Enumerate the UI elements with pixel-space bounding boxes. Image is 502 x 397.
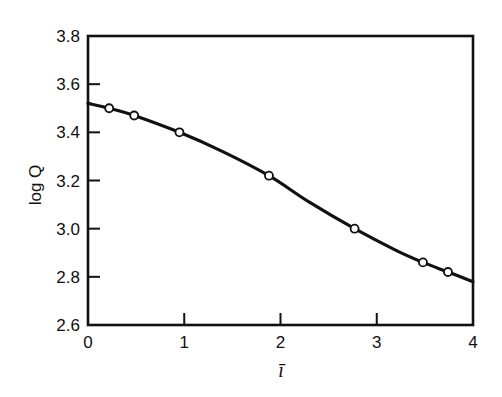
y-tick-label: 3.2	[56, 172, 80, 191]
data-point-marker	[130, 111, 138, 119]
data-point-marker	[419, 258, 427, 266]
data-point-marker	[265, 172, 273, 180]
y-axis-label: log Q	[26, 165, 45, 206]
y-tick-label: 2.6	[56, 316, 80, 335]
data-point-marker	[105, 104, 113, 112]
y-axis-ticks: 2.62.83.03.23.43.63.8	[56, 27, 100, 335]
data-point-marker	[351, 225, 359, 233]
data-point-marker	[444, 268, 452, 276]
fitted-curve	[88, 103, 473, 281]
x-tick-label: 2	[276, 333, 285, 352]
y-tick-label: 2.8	[56, 268, 80, 287]
y-tick-label: 3.6	[56, 75, 80, 94]
y-tick-label: 3.4	[56, 123, 80, 142]
x-tick-label: 0	[83, 333, 92, 352]
x-tick-label: 1	[180, 333, 189, 352]
x-tick-label: 3	[372, 333, 381, 352]
chart-figure: 2.62.83.03.23.43.63.8 01234 log Q ī	[0, 0, 502, 397]
x-axis-label: ī	[278, 359, 286, 381]
x-tick-label: 4	[468, 333, 477, 352]
plot-frame	[88, 36, 473, 325]
x-axis-ticks: 01234	[83, 313, 477, 352]
y-tick-label: 3.0	[56, 220, 80, 239]
y-tick-label: 3.8	[56, 27, 80, 46]
data-points	[105, 104, 452, 276]
data-point-marker	[175, 128, 183, 136]
